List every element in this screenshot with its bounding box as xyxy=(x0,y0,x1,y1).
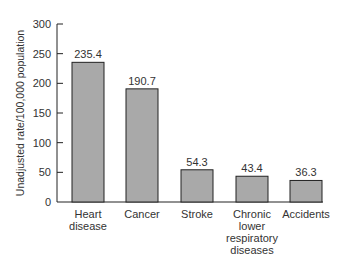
bar-value-label: 190.7 xyxy=(128,75,156,87)
x-category-label: diseases xyxy=(230,244,274,256)
bar-value-label: 36.3 xyxy=(295,166,316,178)
bar-value-label: 43.4 xyxy=(241,162,262,174)
chart-canvas: 050100150200250300 235.4190.754.343.436.… xyxy=(0,0,348,268)
x-category-label: Stroke xyxy=(181,208,213,220)
bars: 235.4190.754.343.436.3 xyxy=(72,48,322,202)
x-category-label: lower xyxy=(239,220,266,232)
y-tick-label: 200 xyxy=(33,77,51,89)
x-category-label: disease xyxy=(69,220,107,232)
bar xyxy=(72,62,104,202)
bar-value-label: 235.4 xyxy=(74,48,102,60)
x-category-label: Heart xyxy=(75,208,102,220)
x-category-label: Accidents xyxy=(282,208,330,220)
y-tick-label: 0 xyxy=(45,196,51,208)
y-tick-label: 50 xyxy=(39,166,51,178)
bar xyxy=(236,176,268,202)
y-tick-label: 100 xyxy=(33,137,51,149)
bar xyxy=(290,180,322,202)
y-axis-label: Unadjusted rate/100,000 population xyxy=(14,30,26,197)
y-tick-label: 250 xyxy=(33,48,51,60)
x-category-label: Chronic xyxy=(233,208,271,220)
bar xyxy=(126,89,158,202)
x-category-label: Cancer xyxy=(124,208,160,220)
bar-value-label: 54.3 xyxy=(186,156,207,168)
y-tick-label: 300 xyxy=(33,18,51,30)
y-tick-label: 150 xyxy=(33,107,51,119)
x-axis-labels: HeartdiseaseCancerStrokeChroniclowerresp… xyxy=(69,208,330,256)
x-category-label: respiratory xyxy=(226,232,278,244)
bar-chart: 050100150200250300 235.4190.754.343.436.… xyxy=(0,0,348,268)
bar xyxy=(181,170,213,202)
